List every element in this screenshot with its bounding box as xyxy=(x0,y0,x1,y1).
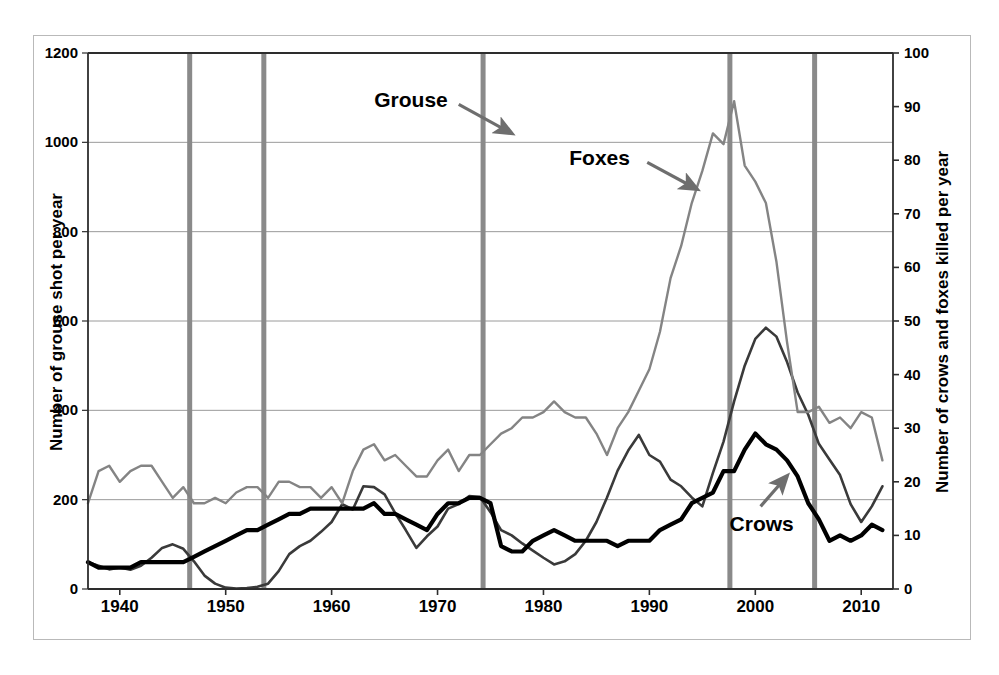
chart-container: 020040060080010001200 010203040506070809… xyxy=(0,0,999,675)
y2-tick-label-60: 60 xyxy=(904,258,921,275)
y-axis-title: Number of grouse shot per year xyxy=(47,193,66,451)
y-tick-label-0: 0 xyxy=(70,580,78,597)
x-tick-label-1950: 1950 xyxy=(207,597,245,616)
y2-axis-tick-labels: 0102030405060708090100 xyxy=(904,44,929,597)
y-tick-label-1200: 1200 xyxy=(45,44,78,61)
x-tick-label-2000: 2000 xyxy=(736,597,774,616)
y-tick-label-200: 200 xyxy=(53,491,78,508)
line-chart: 020040060080010001200 010203040506070809… xyxy=(0,0,999,675)
x-tick-label-1980: 1980 xyxy=(525,597,563,616)
x-tick-label-1990: 1990 xyxy=(630,597,668,616)
y2-tick-label-10: 10 xyxy=(904,526,921,543)
y2-tick-label-70: 70 xyxy=(904,205,921,222)
y-tick-label-1000: 1000 xyxy=(45,133,78,150)
y2-tick-label-40: 40 xyxy=(904,366,921,383)
annotation-label-foxes: Foxes xyxy=(569,146,630,169)
figure-canvas: 020040060080010001200 010203040506070809… xyxy=(0,0,999,675)
annotation-label-crows: Crows xyxy=(730,512,794,535)
x-tick-label-2010: 2010 xyxy=(842,597,880,616)
y2-tick-label-90: 90 xyxy=(904,98,921,115)
x-tick-label-1970: 1970 xyxy=(419,597,457,616)
annotation-arrow-foxes xyxy=(647,162,697,189)
x-tick-label-1940: 1940 xyxy=(101,597,139,616)
y2-tick-label-20: 20 xyxy=(904,473,921,490)
y2-axis-title: Number of crows and foxes killed per yea… xyxy=(933,151,952,493)
x-axis-tick-labels: 19401950196019701980199020002010 xyxy=(101,597,880,616)
x-tick-label-1960: 1960 xyxy=(313,597,351,616)
y2-tick-label-80: 80 xyxy=(904,151,921,168)
annotation-arrow-crows xyxy=(761,476,787,506)
annotation-label-grouse: Grouse xyxy=(374,88,448,111)
y2-tick-label-50: 50 xyxy=(904,312,921,329)
y2-tick-label-100: 100 xyxy=(904,44,929,61)
y2-tick-label-0: 0 xyxy=(904,580,912,597)
y2-tick-label-30: 30 xyxy=(904,419,921,436)
